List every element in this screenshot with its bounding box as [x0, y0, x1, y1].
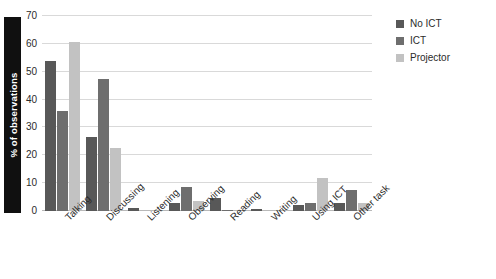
legend-item: Projector: [396, 49, 450, 66]
plot-area: 010203040506070: [42, 16, 372, 211]
legend-swatch-icon: [396, 54, 404, 62]
x-axis-tick: Using ICT: [290, 213, 331, 277]
y-axis-tick-label: 40: [26, 93, 37, 104]
bar-group: [42, 16, 83, 211]
y-axis-label-block: % of observations: [4, 17, 21, 213]
y-axis-tick-label: 10: [26, 177, 37, 188]
x-axis-tick: Writing: [248, 213, 289, 277]
legend-swatch-icon: [396, 20, 404, 28]
bar-group: [83, 16, 124, 211]
x-axis-tick: Talking: [42, 213, 83, 277]
y-axis-tick-label: 20: [26, 149, 37, 160]
legend-swatch-icon: [396, 37, 404, 45]
x-axis-tick: Other task: [331, 213, 372, 277]
x-axis-tick: Reading: [207, 213, 248, 277]
legend-item: ICT: [396, 32, 450, 49]
bar-group: [207, 16, 248, 211]
bar-group: [125, 16, 166, 211]
bar: [57, 111, 68, 211]
bar-group: [248, 16, 289, 211]
x-axis-tick: Listening: [125, 213, 166, 277]
bar-group: [331, 16, 372, 211]
legend-item: No ICT: [396, 15, 450, 32]
y-axis-label: % of observations: [7, 72, 18, 157]
x-axis-tick: Discussing: [83, 213, 124, 277]
y-axis-tick-label: 30: [26, 121, 37, 132]
y-axis-tick-label: 0: [31, 205, 37, 216]
legend-item-label: No ICT: [410, 18, 442, 29]
bar-group: [290, 16, 331, 211]
x-axis-labels: TalkingDiscussingListeningObservingReadi…: [42, 213, 372, 277]
bar: [128, 208, 139, 211]
y-axis-tick-label: 50: [26, 65, 37, 76]
bar-groups: [42, 16, 372, 211]
bar: [293, 205, 304, 211]
legend-item-label: ICT: [410, 35, 426, 46]
bar-chart: % of observations 010203040506070 Talkin…: [0, 0, 496, 279]
x-axis-tick: Observing: [166, 213, 207, 277]
bar: [69, 42, 80, 211]
bar: [346, 190, 357, 211]
y-axis-tick-label: 60: [26, 37, 37, 48]
bar: [45, 61, 56, 211]
bar: [251, 209, 262, 211]
legend: No ICTICTProjector: [396, 15, 450, 66]
y-axis-tick-label: 70: [26, 10, 37, 21]
bar: [181, 187, 192, 211]
bar-group: [166, 16, 207, 211]
legend-item-label: Projector: [410, 52, 450, 63]
bar: [98, 79, 109, 211]
